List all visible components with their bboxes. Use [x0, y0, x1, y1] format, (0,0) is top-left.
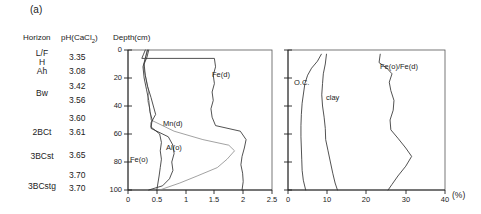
figure-root: (a) Horizon pH(CaCl2) Depth(cm) L/F H Ah…	[0, 0, 481, 214]
x-tick-label-right: 10	[317, 195, 337, 204]
curve-label-clay: clay	[326, 93, 339, 102]
x-tick-label-right: 0	[278, 195, 298, 204]
x-tick-label-right: 20	[356, 195, 376, 204]
chart-right-curves	[301, 54, 412, 190]
series-path-fe-o-fe-d-	[379, 54, 412, 190]
curve-label-fe-ratio: Fe(o)/Fe(d)	[380, 62, 418, 71]
series-path-clay	[322, 54, 338, 190]
chart-right-axes	[284, 50, 445, 194]
series-path-o-c-	[301, 54, 321, 190]
x-axis-unit-label: (%)	[452, 190, 465, 200]
curve-label-oc: O.C.	[294, 78, 309, 87]
chart-right	[0, 0, 481, 214]
x-tick-label-right: 30	[396, 195, 416, 204]
